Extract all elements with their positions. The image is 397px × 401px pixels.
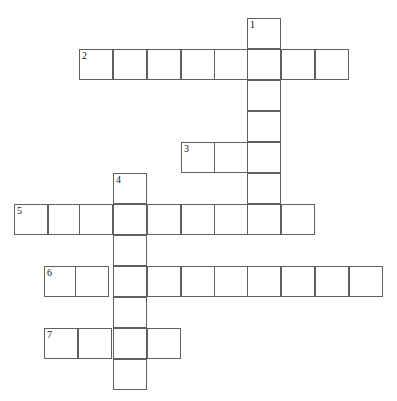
cell-r8c5[interactable] (181, 266, 215, 297)
cell-r8c1[interactable]: 6 (44, 266, 78, 297)
cell-r1c2[interactable]: 2 (79, 49, 113, 80)
cell-number-2: 2 (82, 50, 87, 61)
cell-r1c3[interactable] (113, 49, 147, 80)
cell-r1c7[interactable] (247, 49, 281, 80)
cell-r6c3[interactable] (113, 204, 147, 235)
cell-r1c5[interactable] (181, 49, 215, 80)
cell-number-3: 3 (184, 143, 189, 154)
cell-r9c3[interactable] (113, 297, 147, 328)
cell-r6c5[interactable] (181, 204, 215, 235)
cell-number-1: 1 (250, 19, 255, 30)
cell-r4c6[interactable] (214, 142, 248, 173)
cell-r8c3[interactable] (113, 266, 147, 297)
cell-r10c3[interactable] (113, 328, 147, 359)
cell-r7c3[interactable] (113, 235, 147, 266)
cell-r1c8[interactable] (281, 49, 315, 80)
cell-r4c5[interactable]: 3 (181, 142, 215, 173)
crossword-puzzle: 1234567 (0, 0, 397, 401)
cell-r6c2[interactable] (79, 204, 113, 235)
cell-r10c2[interactable] (78, 328, 112, 359)
cell-r8c2[interactable] (75, 266, 109, 297)
cell-r6c7[interactable] (247, 204, 281, 235)
cell-r10c1[interactable]: 7 (44, 328, 78, 359)
crossword-grid[interactable]: 1234567 (0, 0, 397, 401)
cell-r3c7[interactable] (247, 111, 281, 142)
cell-r0c7[interactable]: 1 (247, 18, 281, 49)
cell-r8c8[interactable] (281, 266, 315, 297)
cell-r8c6[interactable] (214, 266, 248, 297)
cell-r8c7[interactable] (247, 266, 281, 297)
cell-r6c4[interactable] (147, 204, 181, 235)
cell-r6c8[interactable] (281, 204, 315, 235)
cell-r6c6[interactable] (214, 204, 248, 235)
cell-number-4: 4 (116, 174, 121, 185)
cell-r10c4[interactable] (147, 328, 181, 359)
cell-r5c7[interactable] (247, 173, 281, 204)
cell-r6c1[interactable] (48, 204, 82, 235)
cell-r8c9[interactable] (315, 266, 349, 297)
cell-number-6: 6 (47, 267, 52, 278)
cell-number-7: 7 (47, 329, 52, 340)
cell-r6c0[interactable]: 5 (14, 204, 48, 235)
cell-number-5: 5 (17, 205, 22, 216)
cell-r5c3[interactable]: 4 (113, 173, 147, 204)
cell-r8c4[interactable] (147, 266, 181, 297)
cell-r1c9[interactable] (315, 49, 349, 80)
cell-r1c6[interactable] (214, 49, 248, 80)
cell-r4c7[interactable] (247, 142, 281, 173)
cell-r2c7[interactable] (247, 80, 281, 111)
cell-r8c10[interactable] (349, 266, 383, 297)
cell-r11c3[interactable] (113, 359, 147, 390)
cell-r1c4[interactable] (147, 49, 181, 80)
